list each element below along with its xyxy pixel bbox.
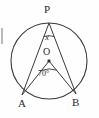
center-point-dot [48, 60, 51, 63]
angle-label-70-degrees: 70° [38, 70, 49, 78]
segment-OB [49, 61, 76, 94]
segment-OA [22, 61, 49, 95]
center-label-o: O [43, 47, 50, 57]
scan-artifact-icon [1, 28, 3, 44]
point-label-p: P [44, 4, 50, 15]
angle-label-x: x [45, 33, 49, 42]
point-label-b: B [72, 97, 79, 108]
point-label-a: A [18, 98, 26, 109]
geometry-figure: P A B O x 70° [0, 0, 99, 118]
geometry-canvas [0, 0, 99, 118]
segment-PB [49, 23, 76, 94]
